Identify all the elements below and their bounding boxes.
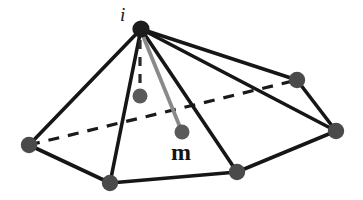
base-node-right <box>328 123 344 139</box>
base-node-bottomright <box>229 164 245 180</box>
edge-v4-v5 <box>297 80 336 131</box>
axis-node <box>133 89 148 104</box>
edge-i-v4 <box>141 29 336 131</box>
interior-node-m <box>175 125 190 140</box>
edge-i-v2 <box>110 29 141 183</box>
base-node-bottomleft <box>102 175 118 191</box>
edge-i-v5 <box>141 29 297 80</box>
edge-v3-v4 <box>237 131 336 172</box>
edge-v1-v2 <box>29 145 110 183</box>
base-node-left <box>21 137 37 153</box>
apex-node <box>132 20 149 37</box>
edge-i-v1 <box>29 29 141 145</box>
base-node-upperright <box>289 72 305 88</box>
diagram-canvas <box>0 0 363 200</box>
apex-label-i: i <box>120 5 125 24</box>
pyramid-diagram: i m <box>0 0 363 200</box>
edge-v2-v3 <box>110 172 237 183</box>
interior-label-m: m <box>171 140 191 164</box>
